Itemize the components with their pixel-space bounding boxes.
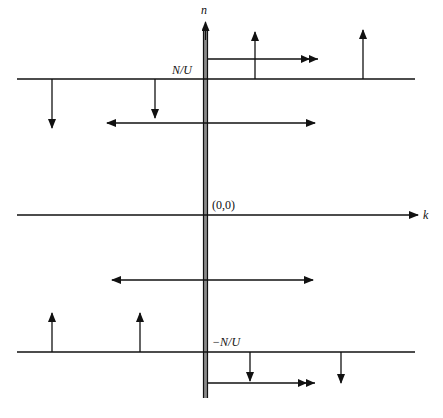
bottom-line-label: −N/U	[212, 335, 241, 349]
lattice-diagram: n N/U k (0,0) −N/U	[0, 0, 443, 418]
n-axis-label: n	[201, 3, 207, 17]
top-line-label: N/U	[171, 63, 193, 77]
origin-label: (0,0)	[212, 198, 235, 212]
k-axis-label: k	[423, 208, 429, 222]
